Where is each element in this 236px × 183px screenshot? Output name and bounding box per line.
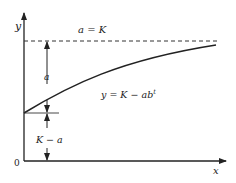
diagram-canvas: y x 0 a = K a K − a y = K − abt bbox=[0, 0, 236, 183]
curve-equation-base: y = K − ab bbox=[100, 89, 153, 100]
curve-equation-label: y = K − abt bbox=[100, 88, 156, 100]
y-axis-label: y bbox=[14, 20, 22, 33]
growth-curve bbox=[24, 45, 216, 113]
asymptote-label: a = K bbox=[78, 24, 107, 35]
lower-dimension-label: K − a bbox=[35, 134, 63, 145]
curve-equation-exponent: t bbox=[153, 88, 156, 96]
upper-dimension-label: a bbox=[44, 72, 49, 82]
x-axis-label: x bbox=[213, 165, 219, 176]
origin-label: 0 bbox=[14, 158, 20, 168]
